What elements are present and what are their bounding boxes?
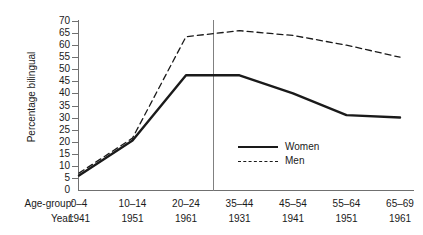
- y-axis-tick-mark: [72, 154, 79, 155]
- x-axis-year-label: 1961: [373, 211, 423, 226]
- y-axis-tick-mark: [72, 93, 79, 94]
- legend-item-women: Women: [238, 140, 358, 154]
- legend-swatch-dashed-icon: [238, 156, 278, 166]
- x-axis-agegroup-label: 20–24: [159, 196, 213, 211]
- x-axis-year-label: 1961: [159, 211, 213, 226]
- x-axis-agegroup-label: 45–54: [266, 196, 320, 211]
- legend-swatch-solid-icon: [238, 142, 278, 152]
- x-axis-year-label: 1941: [266, 211, 320, 226]
- x-axis-labels: Age-group: 0–410–1420–2435–4445–5455–646…: [0, 196, 423, 230]
- x-axis-year-label: 1931: [213, 211, 267, 226]
- legend-label-men: Men: [278, 154, 304, 168]
- x-axis-year-label: 1941: [52, 211, 106, 226]
- y-axis-tick-mark: [72, 178, 79, 179]
- x-axis-agegroup-label: 35–44: [213, 196, 267, 211]
- y-axis-tick-mark: [72, 69, 79, 70]
- legend: Women Men: [238, 140, 358, 168]
- x-axis-agegroup-label: 0–4: [52, 196, 106, 211]
- x-axis-year-label: 1951: [320, 211, 374, 226]
- y-axis-tick-mark: [72, 21, 79, 22]
- y-axis-tick-mark: [72, 45, 79, 46]
- y-axis-tick-mark: [72, 33, 79, 34]
- chart-container: Percentage bilingual 0510152025303540455…: [0, 0, 423, 235]
- legend-item-men: Men: [238, 154, 358, 168]
- y-axis-tick-mark: [72, 130, 79, 131]
- x-axis-year-label: 1951: [106, 211, 160, 226]
- x-axis-agegroup-label: 10–14: [106, 196, 160, 211]
- y-axis-tick-mark: [72, 106, 79, 107]
- y-axis-tick-mark: [72, 57, 79, 58]
- y-axis-tick-mark: [72, 142, 79, 143]
- x-axis-row-year: Year: 1941195119611931194119511961: [0, 211, 423, 226]
- y-axis-tick-mark: [72, 118, 79, 119]
- y-axis-tick-mark: [72, 166, 79, 167]
- x-axis-agegroup-label: 65–69: [373, 196, 423, 211]
- legend-label-women: Women: [278, 140, 319, 154]
- y-axis-tick-mark: [72, 81, 79, 82]
- x-axis-agegroup-label: 55–64: [320, 196, 374, 211]
- x-axis-row-agegroup: Age-group: 0–410–1420–2435–4445–5455–646…: [0, 196, 423, 211]
